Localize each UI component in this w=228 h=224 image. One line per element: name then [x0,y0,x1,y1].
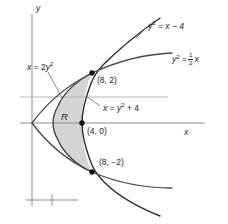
label-lower-eq: = [182,54,187,64]
label-point-8-minus2: (8, −2) [99,158,124,167]
label-upper-eq: = [158,21,163,31]
label-left-lhs: x [27,62,31,72]
label-lower-denominator: 2 [188,60,193,67]
label-curve-y2-equals-x-minus-4: y2 = x − 4 [148,20,184,30]
math-figure-canvas: y x x = 2y2 x = y2 + 4 y2 = x − 4 y2 =12… [0,0,228,224]
label-lower-rhs: x [194,54,198,64]
dot-point-8-2 [89,70,94,75]
label-right-exp: 2 [121,102,124,108]
label-lower-fraction: 12 [188,52,193,66]
x-axis-label: x [184,128,188,137]
dot-point-8-minus2 [89,169,94,174]
label-curve-y2-equals-half-x: y2 =12x [172,52,199,66]
label-upper-exp: 2 [152,20,155,26]
leader-curve-upper [136,28,146,38]
label-right-eq: = [110,103,115,113]
label-right-plus: + 4 [127,103,139,113]
leader-x-equals-2y2 [48,72,62,98]
y-axis-label: y [36,4,40,13]
label-point-8-2: (8, 2) [97,76,117,85]
label-curve-x-equals-y2-plus-4: x = y2 + 4 [103,102,139,112]
label-left-eq: = [34,62,39,72]
label-point-4-0: (4, 0) [87,127,107,136]
leader-x-equals-y2-plus-4 [86,96,100,106]
label-left-exp: 2 [50,61,53,67]
label-right-lhs: x [103,103,107,113]
label-region-R: R [61,112,68,122]
label-upper-rhs: x − 4 [165,21,184,31]
label-lower-exp: 2 [176,54,179,60]
dot-point-4-0 [79,120,84,125]
label-curve-x-equals-2y2: x = 2y2 [27,61,53,71]
